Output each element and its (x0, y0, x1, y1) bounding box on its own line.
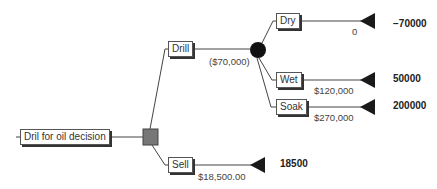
chance-node (250, 42, 266, 58)
branch-drill-label[interactable]: Drill (168, 41, 193, 57)
outcome-wet-value: $120,000 (314, 85, 354, 96)
branch-sell-payoff: 18500 (280, 158, 308, 169)
outcome-soak-label[interactable]: Soak (276, 99, 307, 115)
terminal-node-soak (360, 99, 375, 115)
outcome-soak-value: $270,000 (314, 112, 354, 123)
branch-sell-label[interactable]: Sell (168, 157, 193, 173)
terminal-node-wet (360, 72, 375, 88)
terminal-node-dry (360, 13, 375, 29)
terminal-node-sell (250, 157, 265, 173)
outcome-soak-payoff: 200000 (393, 100, 426, 111)
outcome-wet-label[interactable]: Wet (276, 72, 302, 88)
decision-node (143, 129, 158, 145)
outcome-dry-value: 0 (352, 26, 357, 37)
outcome-dry-label[interactable]: Dry (276, 13, 300, 29)
branch-sell-value: $18,500.00 (198, 171, 246, 182)
tree-connectors (0, 0, 437, 189)
root-decision-label[interactable]: Dril for oil decision (20, 129, 110, 145)
outcome-wet-payoff: 50000 (393, 73, 421, 84)
branch-drill-value: ($70,000) (209, 56, 250, 67)
outcome-dry-payoff: −70000 (393, 18, 427, 29)
